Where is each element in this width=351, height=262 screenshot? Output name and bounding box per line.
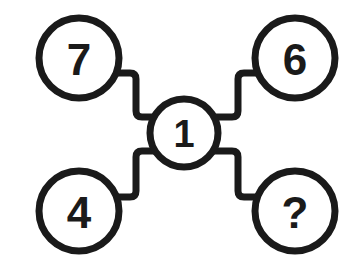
puzzle-diagram-svg: 7 6 1 4 ?: [0, 0, 351, 262]
connector-question-to-one: [214, 151, 259, 197]
node-four-label: 4: [67, 188, 92, 237]
node-group: 7 6 1 4 ?: [39, 18, 335, 251]
node-question-label: ?: [282, 188, 309, 237]
node-four[interactable]: 4: [39, 171, 119, 251]
node-seven[interactable]: 7: [39, 18, 119, 98]
connector-seven-to-one: [115, 73, 154, 117]
connector-four-to-one: [115, 151, 154, 197]
node-six[interactable]: 6: [255, 18, 335, 98]
node-question[interactable]: ?: [255, 171, 335, 251]
node-one-label: 1: [173, 113, 194, 155]
connector-six-to-one: [214, 73, 259, 117]
puzzle-diagram-canvas: 7 6 1 4 ?: [0, 0, 351, 262]
node-six-label: 6: [283, 35, 307, 84]
node-seven-label: 7: [67, 35, 91, 84]
node-one[interactable]: 1: [150, 99, 218, 167]
